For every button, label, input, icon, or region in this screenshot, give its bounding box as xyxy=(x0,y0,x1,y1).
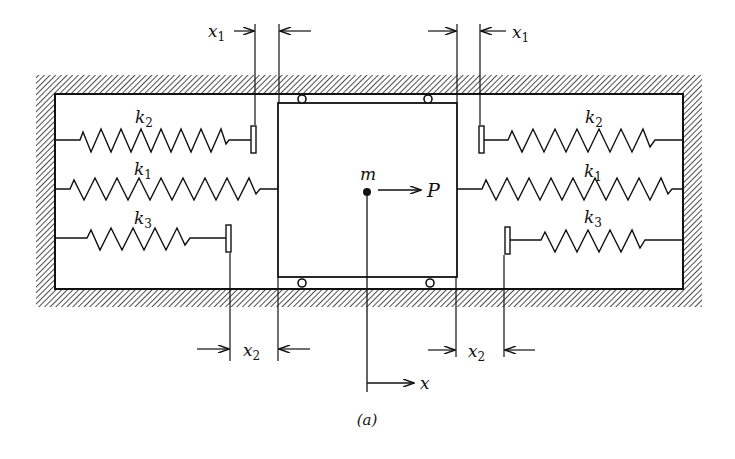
mass-label: m xyxy=(360,164,376,184)
roller-top-right-icon xyxy=(424,95,432,103)
gap-label-x2-right: x2 xyxy=(468,341,485,364)
roller-bottom-right-icon xyxy=(426,279,434,287)
spring-k1-left xyxy=(55,178,278,200)
label-k3-right: k3 xyxy=(584,207,602,230)
stopper-k2-right xyxy=(479,126,484,153)
displacement-label: x xyxy=(420,373,430,393)
gap-label-x2-left: x2 xyxy=(243,340,260,363)
stopper-k2-left xyxy=(251,126,256,153)
mass-center-dot-icon xyxy=(363,188,371,196)
spring-k2-left xyxy=(55,129,251,152)
spring-mass-diagram: k2 k1 k3 k2 k1 k3 m P x x1 x1 xyxy=(0,0,735,459)
label-k3-left: k3 xyxy=(134,208,152,231)
label-k1-right: k1 xyxy=(584,161,602,184)
gap-label-x1-right: x1 xyxy=(512,22,529,45)
spring-k3-left xyxy=(55,228,226,250)
gap-label-x1-left: x1 xyxy=(208,21,225,44)
label-k2-left: k2 xyxy=(135,107,153,130)
roller-top-left-icon xyxy=(298,95,306,103)
spring-k2-right xyxy=(484,129,683,152)
roller-bottom-left-icon xyxy=(298,279,306,287)
spring-k3-right xyxy=(510,230,683,252)
spring-k1-right xyxy=(457,178,683,200)
stopper-k3-left xyxy=(226,225,231,252)
stopper-k3-right xyxy=(505,227,510,254)
figure-caption: (a) xyxy=(357,411,378,429)
label-k1-left: k1 xyxy=(134,159,152,182)
label-k2-right: k2 xyxy=(585,107,603,130)
force-label: P xyxy=(426,179,441,201)
